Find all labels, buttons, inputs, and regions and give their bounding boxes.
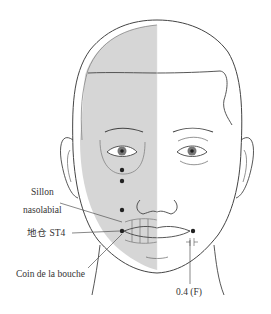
face-illustration [0, 0, 271, 314]
point-st4-right [191, 229, 195, 233]
right-ear-inner [243, 150, 247, 182]
label-distance: 0.4 (F) [176, 288, 202, 298]
right-pupil [190, 149, 194, 153]
left-ear-inner [67, 150, 71, 182]
label-nasolabial: nasolabial [23, 206, 62, 216]
point-below-eye-1 [120, 168, 124, 172]
point-below-eye-2 [120, 179, 124, 183]
label-corner-mouth: Coin de la bouche [16, 270, 85, 280]
point-nasolabial [120, 208, 124, 212]
right-eye-bag [180, 161, 208, 165]
right-eyebrow [173, 128, 213, 132]
right-eye-lid [178, 137, 208, 141]
left-ear [60, 138, 78, 198]
label-st4-point: 地仓 ST4 [27, 229, 65, 239]
neck-left [92, 245, 100, 295]
neck-right [214, 245, 224, 295]
left-pupil [120, 149, 124, 153]
label-sillon: Sillon [31, 188, 54, 198]
point-st4-left [120, 229, 124, 233]
acupuncture-diagram: Sillon nasolabial 地仓 ST4 Coin de la bouc… [0, 0, 271, 314]
distance-marker [186, 238, 198, 246]
leader-coin [88, 234, 122, 268]
right-ear [236, 138, 254, 198]
